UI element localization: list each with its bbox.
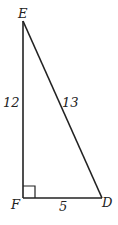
right-angle-marker bbox=[23, 186, 35, 198]
side-label-ed: 13 bbox=[62, 95, 79, 110]
triangle-diagram: E F D 12 13 5 bbox=[0, 0, 118, 225]
vertex-label-e: E bbox=[17, 6, 28, 21]
vertex-label-f: F bbox=[10, 197, 21, 212]
side-label-fd: 5 bbox=[59, 199, 67, 214]
vertex-label-d: D bbox=[101, 195, 113, 210]
side-label-ef: 12 bbox=[3, 95, 20, 110]
